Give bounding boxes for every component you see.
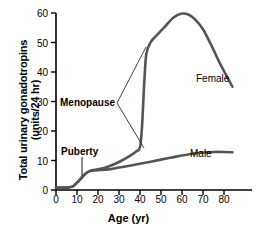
x-tick-label-80: 80 bbox=[214, 194, 234, 205]
y-tick-label-20: 20 bbox=[30, 126, 48, 137]
series-label-female: Female bbox=[196, 73, 229, 84]
x-axis-title: Age (yr) bbox=[0, 212, 257, 224]
y-tick-label-50: 50 bbox=[30, 38, 48, 49]
y-tick-label-10: 10 bbox=[30, 156, 48, 167]
x-tick-label-60: 60 bbox=[172, 194, 192, 205]
x-tick-label-10: 10 bbox=[67, 194, 87, 205]
y-axis-title-line1: Total urinary gonadotropins bbox=[17, 25, 29, 195]
y-tick-label-60: 60 bbox=[30, 8, 48, 19]
x-tick-label-70: 70 bbox=[193, 194, 213, 205]
series-label-male: Male bbox=[190, 148, 212, 159]
x-tick-label-0: 0 bbox=[46, 194, 66, 205]
x-tick-label-20: 20 bbox=[88, 194, 108, 205]
y-tick-label-40: 40 bbox=[30, 67, 48, 78]
gonadotropins-line-chart: Total urinary gonadotropins (units/24 hr… bbox=[0, 0, 257, 233]
y-axis-title-line2: (units/24 hr) bbox=[29, 25, 41, 195]
x-tick-label-50: 50 bbox=[151, 194, 171, 205]
annotation-menopause: Menopause bbox=[60, 97, 115, 108]
y-tick-label-30: 30 bbox=[30, 97, 48, 108]
y-axis-title: Total urinary gonadotropins (units/24 hr… bbox=[17, 25, 41, 195]
annotation-puberty: Puberty bbox=[61, 146, 98, 157]
x-tick-label-40: 40 bbox=[130, 194, 150, 205]
x-tick-label-30: 30 bbox=[109, 194, 129, 205]
